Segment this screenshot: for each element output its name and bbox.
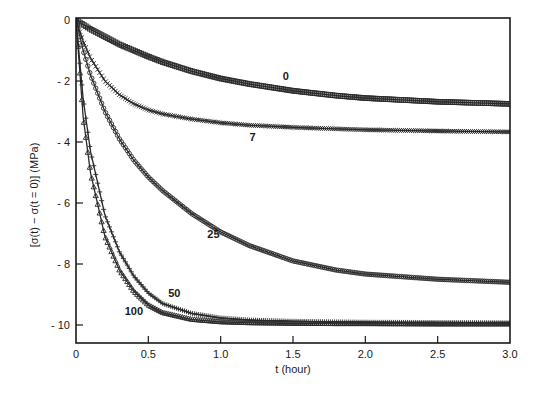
curve-label-50: 50 xyxy=(168,287,180,299)
x-tick-label: 1.5 xyxy=(285,348,300,360)
series-7 xyxy=(74,18,512,134)
x-axis-ticks: 00.51.01.52.02.53.0 xyxy=(73,336,518,360)
curve-label-7: 7 xyxy=(249,131,255,143)
series-0 xyxy=(74,18,513,106)
y-tick-label: - 10 xyxy=(51,319,70,331)
x-axis-title: t (hour) xyxy=(275,363,310,375)
x-tick-label: 2.0 xyxy=(358,348,373,360)
x-tick-label: 0.5 xyxy=(141,348,156,360)
x-tick-label: 0 xyxy=(73,348,79,360)
x-tick-label: 3.0 xyxy=(502,348,517,360)
y-axis-title: [σ(t) − σ(t = 0)] (MPa) xyxy=(28,143,40,248)
y-tick-label: 0 xyxy=(64,14,70,26)
y-tick-label: - 2 xyxy=(57,75,70,87)
y-tick-label: - 6 xyxy=(57,197,70,209)
x-tick-label: 2.5 xyxy=(430,348,445,360)
plot-frame xyxy=(76,18,510,343)
curve-label-0: 0 xyxy=(283,70,289,82)
relaxation-chart: 00.51.01.52.02.53.0 0- 2- 4- 6- 8- 10 07… xyxy=(0,0,533,393)
curve-label-25: 25 xyxy=(207,228,219,240)
x-tick-label: 1.0 xyxy=(213,348,228,360)
curve-label-100: 100 xyxy=(125,305,143,317)
y-tick-label: - 8 xyxy=(57,258,70,270)
data-curves xyxy=(73,17,512,326)
y-tick-label: - 4 xyxy=(57,136,70,148)
series-25 xyxy=(74,18,512,285)
y-axis-ticks: 0- 2- 4- 6- 8- 10 xyxy=(51,14,83,331)
